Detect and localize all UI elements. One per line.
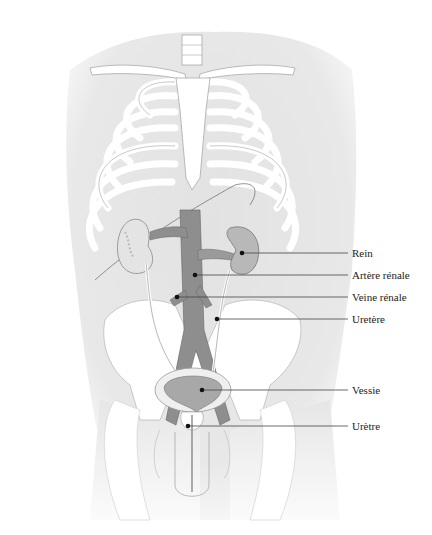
label-uretre: Urètre bbox=[352, 420, 380, 432]
label-uretere: Uretère bbox=[352, 313, 385, 325]
label-rein: Rein bbox=[352, 247, 373, 259]
anatomy-illustration bbox=[0, 0, 432, 535]
label-vessie: Vessie bbox=[352, 384, 380, 396]
cervical-spine bbox=[182, 35, 202, 65]
urinary-system-diagram: Rein Artère rénale Veine rénale Uretère … bbox=[0, 0, 432, 535]
label-artere-renale: Artère rénale bbox=[352, 269, 410, 281]
label-veine-renale: Veine rénale bbox=[352, 291, 407, 303]
